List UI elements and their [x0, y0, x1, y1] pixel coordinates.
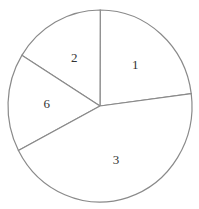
pie-chart: 1263 — [0, 0, 199, 209]
slice-label: 3 — [113, 152, 120, 167]
pie-slice-1 — [100, 10, 191, 106]
slice-label: 1 — [132, 57, 139, 72]
slice-label: 2 — [71, 50, 78, 65]
slice-label: 6 — [43, 96, 50, 111]
pie-slices — [8, 10, 192, 202]
